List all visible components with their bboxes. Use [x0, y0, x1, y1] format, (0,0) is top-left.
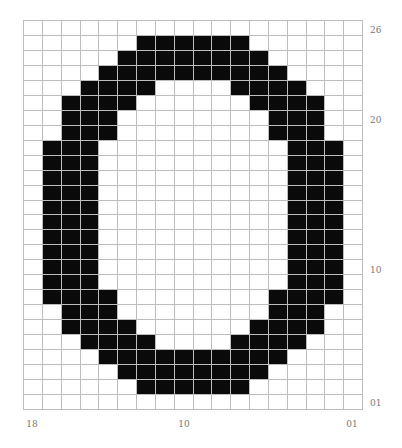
filled-stitch-cell — [61, 214, 80, 229]
filled-stitch-cell — [306, 319, 325, 334]
empty-stitch-cell — [193, 20, 212, 35]
empty-stitch-cell — [98, 379, 117, 394]
filled-stitch-cell — [80, 334, 99, 349]
empty-stitch-cell — [324, 349, 343, 364]
empty-stitch-cell — [23, 125, 42, 140]
empty-stitch-cell — [343, 274, 362, 289]
empty-stitch-cell — [306, 394, 325, 409]
filled-stitch-cell — [80, 140, 99, 155]
empty-stitch-cell — [136, 20, 155, 35]
empty-stitch-cell — [268, 170, 287, 185]
empty-stitch-cell — [343, 35, 362, 50]
empty-stitch-cell — [343, 185, 362, 200]
empty-stitch-cell — [80, 364, 99, 379]
filled-stitch-cell — [306, 214, 325, 229]
filled-stitch-cell — [98, 349, 117, 364]
empty-stitch-cell — [268, 379, 287, 394]
filled-stitch-cell — [287, 80, 306, 95]
empty-stitch-cell — [23, 274, 42, 289]
empty-stitch-cell — [287, 394, 306, 409]
filled-stitch-cell — [80, 214, 99, 229]
empty-stitch-cell — [230, 289, 249, 304]
empty-stitch-cell — [343, 50, 362, 65]
filled-stitch-cell — [61, 140, 80, 155]
filled-stitch-cell — [249, 80, 268, 95]
empty-stitch-cell — [211, 259, 230, 274]
filled-stitch-cell — [61, 259, 80, 274]
empty-stitch-cell — [61, 80, 80, 95]
col-label-18: 18 — [26, 420, 37, 429]
empty-stitch-cell — [287, 50, 306, 65]
empty-stitch-cell — [193, 140, 212, 155]
filled-stitch-cell — [230, 364, 249, 379]
empty-stitch-cell — [211, 110, 230, 125]
empty-stitch-cell — [155, 259, 174, 274]
filled-stitch-cell — [117, 364, 136, 379]
filled-stitch-cell — [287, 95, 306, 110]
empty-stitch-cell — [324, 379, 343, 394]
empty-stitch-cell — [23, 334, 42, 349]
filled-stitch-cell — [306, 244, 325, 259]
empty-stitch-cell — [117, 394, 136, 409]
empty-stitch-cell — [211, 80, 230, 95]
empty-stitch-cell — [174, 80, 193, 95]
empty-stitch-cell — [249, 244, 268, 259]
filled-stitch-cell — [61, 274, 80, 289]
filled-stitch-cell — [136, 364, 155, 379]
empty-stitch-cell — [23, 65, 42, 80]
filled-stitch-cell — [136, 65, 155, 80]
filled-stitch-cell — [287, 110, 306, 125]
filled-stitch-cell — [268, 304, 287, 319]
filled-stitch-cell — [324, 200, 343, 215]
filled-stitch-cell — [306, 185, 325, 200]
empty-stitch-cell — [249, 214, 268, 229]
filled-stitch-cell — [306, 200, 325, 215]
filled-stitch-cell — [230, 65, 249, 80]
empty-stitch-cell — [287, 379, 306, 394]
empty-stitch-cell — [230, 140, 249, 155]
empty-stitch-cell — [136, 155, 155, 170]
empty-stitch-cell — [230, 244, 249, 259]
empty-stitch-cell — [42, 394, 61, 409]
empty-stitch-cell — [136, 185, 155, 200]
empty-stitch-cell — [80, 20, 99, 35]
empty-stitch-cell — [23, 349, 42, 364]
empty-stitch-cell — [136, 319, 155, 334]
empty-stitch-cell — [98, 259, 117, 274]
filled-stitch-cell — [268, 95, 287, 110]
filled-stitch-cell — [306, 259, 325, 274]
empty-stitch-cell — [42, 20, 61, 35]
empty-stitch-cell — [287, 65, 306, 80]
knitting-chart-grid — [23, 20, 363, 410]
empty-stitch-cell — [268, 214, 287, 229]
filled-stitch-cell — [80, 259, 99, 274]
empty-stitch-cell — [117, 244, 136, 259]
filled-stitch-cell — [136, 35, 155, 50]
empty-stitch-cell — [136, 394, 155, 409]
empty-stitch-cell — [193, 214, 212, 229]
filled-stitch-cell — [42, 200, 61, 215]
empty-stitch-cell — [174, 274, 193, 289]
filled-stitch-cell — [249, 319, 268, 334]
filled-stitch-cell — [136, 334, 155, 349]
empty-stitch-cell — [249, 304, 268, 319]
empty-stitch-cell — [211, 274, 230, 289]
empty-stitch-cell — [268, 244, 287, 259]
empty-stitch-cell — [193, 304, 212, 319]
empty-stitch-cell — [136, 214, 155, 229]
empty-stitch-cell — [343, 349, 362, 364]
filled-stitch-cell — [61, 244, 80, 259]
empty-stitch-cell — [324, 20, 343, 35]
empty-stitch-cell — [211, 214, 230, 229]
empty-stitch-cell — [249, 125, 268, 140]
filled-stitch-cell — [61, 304, 80, 319]
filled-stitch-cell — [324, 185, 343, 200]
filled-stitch-cell — [287, 334, 306, 349]
empty-stitch-cell — [268, 155, 287, 170]
filled-stitch-cell — [211, 50, 230, 65]
empty-stitch-cell — [193, 155, 212, 170]
empty-stitch-cell — [343, 155, 362, 170]
empty-stitch-cell — [343, 110, 362, 125]
empty-stitch-cell — [98, 50, 117, 65]
filled-stitch-cell — [306, 170, 325, 185]
